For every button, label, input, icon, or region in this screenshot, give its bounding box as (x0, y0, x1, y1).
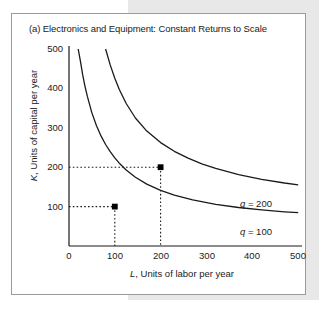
figure-root: (a) Electronics and Equipment: Constant … (0, 0, 319, 311)
xtick-200: 200 (146, 250, 176, 261)
xtick-400: 400 (237, 250, 267, 261)
curve-label-q200: q = 200 (240, 198, 272, 209)
curve-label-q100: q = 100 (240, 226, 272, 237)
point-q200-marker (158, 164, 164, 170)
x-axis-label-text: , Units of labor per year (135, 268, 234, 279)
isoquant-q200 (106, 49, 299, 185)
xtick-500: 500 (283, 250, 313, 261)
figure-card: (a) Electronics and Equipment: Constant … (11, 13, 306, 295)
point-q100-marker (112, 204, 118, 210)
curve-label-q200-text: = 200 (245, 198, 272, 209)
isoquant-q100 (78, 49, 298, 213)
ytick-100: 100 (33, 201, 63, 212)
y-axis-label: K, Units of capital per year (28, 61, 39, 191)
x-axis-label: L, Units of labor per year (130, 268, 234, 279)
xtick-300: 300 (192, 250, 222, 261)
y-axis-label-symbol: K (28, 175, 39, 181)
plot-area: 500 400 300 200 100 0 100 200 300 400 50… (12, 14, 307, 296)
ytick-500: 500 (33, 43, 63, 54)
curve-label-q100-text: = 100 (245, 226, 272, 237)
xtick-0: 0 (54, 250, 84, 261)
xtick-100: 100 (100, 250, 130, 261)
y-axis-label-text: , Units of capital per year (28, 70, 39, 175)
